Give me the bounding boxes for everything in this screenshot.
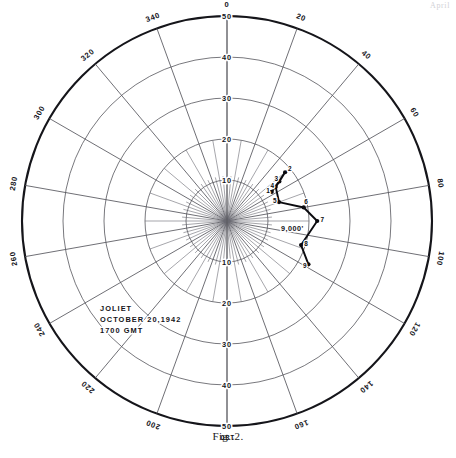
data-point-label-7: 7 xyxy=(320,216,324,223)
azimuth-label-280: 280 xyxy=(8,175,19,191)
azimuth-spoke-220 xyxy=(95,221,227,378)
figure-container: April 0204060801001201401601802002202402… xyxy=(0,0,456,458)
data-point-label-3: 3 xyxy=(274,175,278,182)
observation-time: 1700 GMT xyxy=(100,326,143,335)
azimuth-spoke-320 xyxy=(95,64,227,221)
azimuth-label-320: 320 xyxy=(79,47,96,63)
data-point-label-6: 6 xyxy=(304,198,308,205)
azimuth-spokes xyxy=(25,16,429,426)
polar-hodograph-chart: 0204060801001201401601802002202402602803… xyxy=(0,0,456,458)
radial-label-down-10: 10 xyxy=(222,258,232,267)
radial-label-down-30: 30 xyxy=(222,340,232,349)
data-point-label-8: 8 xyxy=(304,240,308,247)
azimuth-label-220: 220 xyxy=(79,379,96,395)
station-name: JOLIET xyxy=(100,304,132,313)
data-point-label-4: 4 xyxy=(270,182,274,189)
azimuth-label-120: 120 xyxy=(407,321,422,338)
data-point-1 xyxy=(270,190,274,194)
figure-caption-text: Fig. 2. xyxy=(212,430,243,442)
data-point-7 xyxy=(315,219,319,223)
azimuth-label-140: 140 xyxy=(358,379,375,395)
azimuth-label-100: 100 xyxy=(435,251,446,267)
azimuth-label-340: 340 xyxy=(144,11,161,25)
radial-label-up-40: 40 xyxy=(222,53,232,62)
azimuth-label-60: 60 xyxy=(408,106,421,119)
data-point-label-9: 9 xyxy=(303,262,307,269)
radial-label-up-10: 10 xyxy=(222,176,232,185)
data-point-4 xyxy=(274,185,278,189)
radial-label-up-30: 30 xyxy=(222,94,232,103)
altitude-label: 9,000' xyxy=(281,224,304,233)
data-point-label-5: 5 xyxy=(273,197,277,204)
azimuth-spoke-140 xyxy=(227,221,359,378)
radial-label-up-50: 50 xyxy=(222,12,232,21)
figure-caption: Fig. 2. xyxy=(0,430,456,442)
observation-date: OCTOBER 20,1942 xyxy=(100,315,181,324)
azimuth-label-260: 260 xyxy=(8,251,19,267)
azimuth-label-20: 20 xyxy=(295,11,307,23)
azimuth-label-240: 240 xyxy=(32,321,47,338)
radial-label-down-20: 20 xyxy=(222,299,232,308)
radial-label-up-20: 20 xyxy=(222,135,232,144)
data-point-label-2: 2 xyxy=(288,165,292,172)
azimuth-label-300: 300 xyxy=(32,104,47,121)
wind-trace-series: 112233445566778899 xyxy=(266,165,324,269)
data-point-5 xyxy=(277,200,281,204)
data-point-9 xyxy=(306,262,310,266)
azimuth-label-40: 40 xyxy=(360,48,373,61)
azimuth-label-0: 0 xyxy=(225,0,230,9)
radial-label-down-40: 40 xyxy=(222,381,232,390)
azimuth-spoke-40 xyxy=(227,64,359,221)
azimuth-label-80: 80 xyxy=(435,178,446,189)
data-point-6 xyxy=(302,205,306,209)
station-annotation: 9,000'9,000'JOLIETJOLIETOCTOBER 20,1942O… xyxy=(100,224,304,335)
data-point-8 xyxy=(299,243,303,247)
data-point-2 xyxy=(283,170,287,174)
